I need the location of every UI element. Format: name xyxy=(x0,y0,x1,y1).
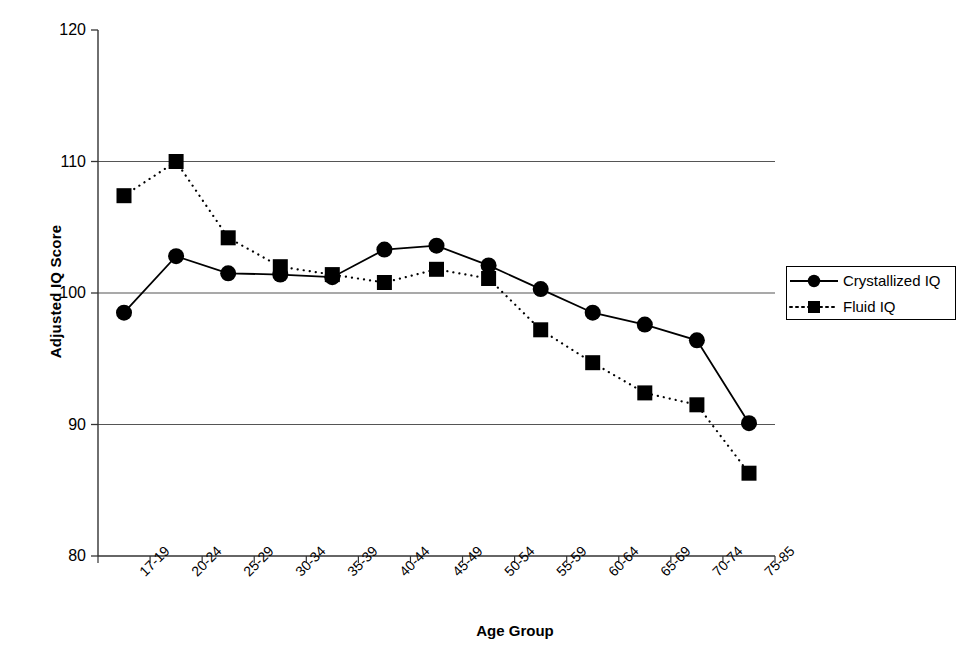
data-point-fluid-iq-40-44 xyxy=(377,275,392,290)
data-point-fluid-iq-70-74 xyxy=(689,397,704,412)
data-point-crystallized-iq-17-19 xyxy=(116,305,132,321)
data-point-crystallized-iq-55-59 xyxy=(533,281,549,297)
iq-by-age-line-chart: Adjusted IQ Score 1201101009080 17-1920-… xyxy=(0,0,975,662)
legend: Crystallized IQ Fluid IQ xyxy=(786,266,956,320)
data-point-fluid-iq-25-29 xyxy=(221,230,236,245)
legend-entry-fluid: Fluid IQ xyxy=(787,293,955,320)
data-point-crystallized-iq-20-24 xyxy=(168,248,184,264)
data-point-fluid-iq-20-24 xyxy=(169,154,184,169)
series-line-fluid-iq xyxy=(124,162,749,474)
legend-entry-crystallized: Crystallized IQ xyxy=(787,267,955,294)
data-point-crystallized-iq-45-49 xyxy=(429,238,445,254)
data-point-crystallized-iq-35-39 xyxy=(324,269,340,285)
data-point-fluid-iq-75-85 xyxy=(742,466,757,481)
data-point-fluid-iq-60-64 xyxy=(585,355,600,370)
square-marker-icon xyxy=(787,297,841,317)
data-point-crystallized-iq-65-69 xyxy=(637,317,653,333)
data-point-crystallized-iq-25-29 xyxy=(220,265,236,281)
y-tick-label-110: 110 xyxy=(40,154,86,170)
y-tick-label-90: 90 xyxy=(40,417,86,433)
data-point-crystallized-iq-30-34 xyxy=(272,267,288,283)
legend-label-fluid: Fluid IQ xyxy=(841,298,896,315)
y-tick-label-80: 80 xyxy=(40,548,86,564)
data-point-crystallized-iq-75-85 xyxy=(741,415,757,431)
x-axis-title: Age Group xyxy=(0,622,975,639)
y-tick-label-120: 120 xyxy=(40,22,86,38)
data-point-crystallized-iq-70-74 xyxy=(689,332,705,348)
y-tick-label-100: 100 xyxy=(40,285,86,301)
data-point-fluid-iq-45-49 xyxy=(429,262,444,277)
data-point-crystallized-iq-50-54 xyxy=(481,257,497,273)
data-point-fluid-iq-55-59 xyxy=(533,322,548,337)
data-point-crystallized-iq-40-44 xyxy=(376,242,392,258)
data-point-fluid-iq-17-19 xyxy=(117,188,132,203)
data-point-fluid-iq-65-69 xyxy=(637,385,652,400)
circle-marker-icon xyxy=(787,271,841,291)
data-point-crystallized-iq-60-64 xyxy=(585,305,601,321)
legend-label-crystallized: Crystallized IQ xyxy=(841,272,941,289)
